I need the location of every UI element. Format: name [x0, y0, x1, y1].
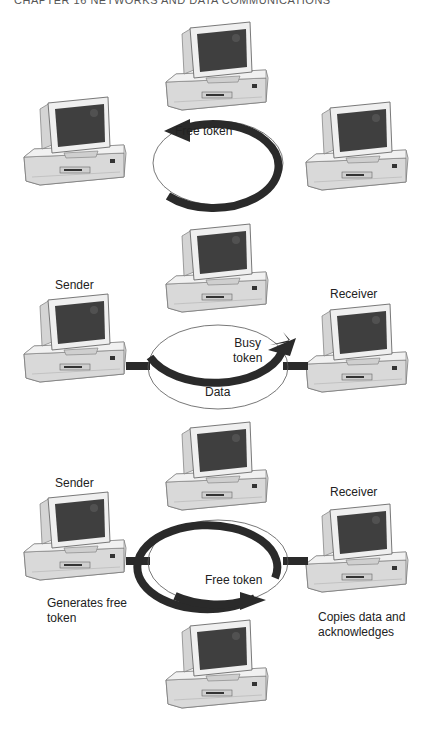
receiver-note: Copies data and acknowledges	[318, 610, 405, 640]
sender-note: Generates free token	[47, 596, 127, 626]
ring-arrow-thick	[137, 525, 277, 609]
free-token-label: Free token	[205, 573, 262, 588]
